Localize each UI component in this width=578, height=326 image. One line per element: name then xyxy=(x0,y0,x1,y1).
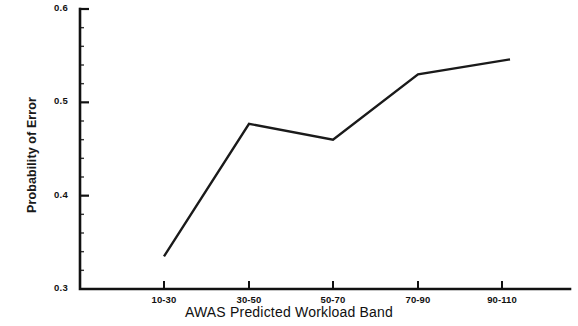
x-axis-title: AWAS Predicted Workload Band xyxy=(0,304,578,320)
x-axis-tick-label: 70-90 xyxy=(383,294,453,305)
series-polyline xyxy=(164,59,510,256)
data-series-line xyxy=(164,59,510,256)
chart-figure: Probability of Error AWAS Predicted Work… xyxy=(0,0,578,326)
y-axis-tick-label: 0.4 xyxy=(24,189,68,200)
x-axis-tick-label: 90-110 xyxy=(467,294,537,305)
chart-axes xyxy=(80,9,570,289)
x-axis-tick-label: 30-50 xyxy=(214,294,284,305)
y-axis-tick-label: 0.5 xyxy=(24,95,68,106)
axis-spine xyxy=(80,9,570,289)
y-axis-tick-label: 0.6 xyxy=(24,2,68,13)
y-axis-title: Probability of Error xyxy=(25,55,39,255)
y-axis-tick-label: 0.3 xyxy=(24,282,68,293)
chart-plot-area xyxy=(0,0,578,326)
x-axis-tick-label: 50-70 xyxy=(298,294,368,305)
x-axis-tick-label: 10-30 xyxy=(129,294,199,305)
